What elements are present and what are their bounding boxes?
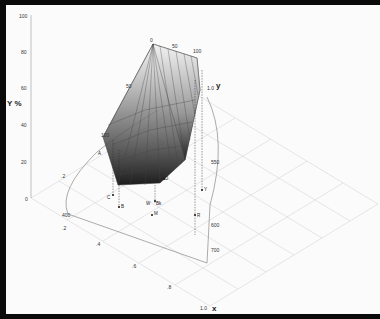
svg-text:B: B: [121, 204, 124, 209]
svg-text:1.0: 1.0: [200, 305, 207, 311]
svg-text:20: 20: [21, 159, 27, 165]
svg-text:100: 100: [19, 13, 28, 19]
svg-text:.4: .4: [96, 241, 100, 247]
svg-text:700: 700: [211, 247, 220, 253]
vertical-axis: 100 80 60 40 20 0 Y %: [7, 13, 31, 202]
svg-text:A: A: [98, 151, 101, 156]
svg-text:D: D: [165, 176, 169, 181]
chart-3d: 100 80 60 40 20 0 Y % .2 .4 .6 .8 1.0 x …: [0, 0, 380, 319]
y-percent-axis-title: Y %: [7, 99, 22, 108]
svg-text:.6: .6: [132, 263, 136, 269]
svg-text:600: 600: [211, 222, 220, 228]
svg-text:.2: .2: [62, 225, 66, 231]
svg-text:W: W: [146, 201, 151, 206]
y-plane-axis-title: y: [216, 81, 221, 90]
ground-grid: [31, 96, 378, 306]
svg-text:M: M: [154, 211, 158, 216]
svg-text:.8: .8: [167, 284, 171, 290]
svg-text:400: 400: [62, 212, 71, 218]
svg-text:60: 60: [21, 85, 27, 91]
svg-text:40: 40: [21, 122, 27, 128]
svg-text:R: R: [197, 213, 201, 218]
svg-text:1.0: 1.0: [207, 85, 214, 91]
svg-text:550: 550: [211, 159, 220, 165]
color-solid-surface: 0 50 100 50 100: [101, 37, 202, 185]
svg-text:50: 50: [126, 83, 132, 89]
x-axis-title: x: [212, 304, 217, 313]
svg-text:80: 80: [21, 49, 27, 55]
svg-text:0: 0: [150, 37, 153, 43]
svg-text:Y: Y: [204, 187, 207, 192]
svg-text:0: 0: [25, 196, 28, 202]
svg-text:.2: .2: [61, 173, 65, 179]
svg-text:50: 50: [172, 43, 178, 49]
svg-text:Bk: Bk: [156, 201, 162, 206]
svg-text:C: C: [107, 195, 111, 200]
svg-text:100: 100: [193, 48, 202, 54]
svg-text:100: 100: [101, 132, 110, 138]
